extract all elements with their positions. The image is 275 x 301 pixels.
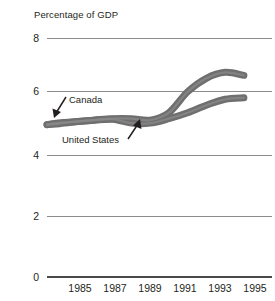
annotation-label-canada: Canada	[69, 94, 103, 105]
annotation-arrow-canada-head	[53, 109, 62, 119]
chart-container: Percentage of GDP 8 6 4 2 0 1985 1987 19…	[0, 0, 275, 301]
y-tick-label-4: 4	[33, 149, 39, 161]
x-tick-label-1987: 1987	[103, 282, 127, 294]
annotation-canada: Canada	[53, 94, 103, 118]
x-axis-ticks: 1985 1987 1989 1991 1993 1995	[68, 282, 267, 294]
x-tick-label-1989: 1989	[138, 282, 162, 294]
y-tick-label-0: 0	[33, 271, 39, 283]
x-tick-label-1995: 1995	[243, 282, 267, 294]
annotation-label-united-states: United States	[62, 134, 119, 145]
y-tick-label-2: 2	[33, 210, 39, 222]
y-tick-label-8: 8	[33, 32, 39, 44]
y-axis-ticks: 8 6 4 2 0	[33, 32, 39, 283]
line-chart-plot: 8 6 4 2 0 1985 1987 1989 1991 1993 1995 …	[0, 0, 275, 301]
x-tick-label-1991: 1991	[173, 282, 197, 294]
x-tick-label-1993: 1993	[208, 282, 232, 294]
y-tick-label-6: 6	[33, 85, 39, 97]
x-tick-label-1985: 1985	[68, 282, 92, 294]
